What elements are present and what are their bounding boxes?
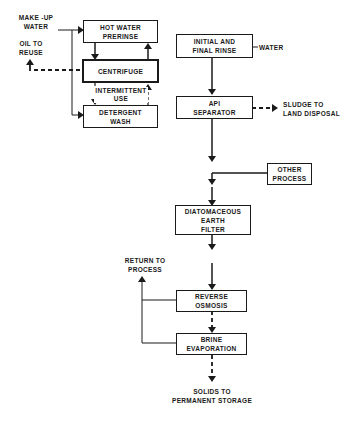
oil-to-reuse-label: OIL TO REUSE [14,39,48,57]
label-line: USE [94,95,148,103]
box-label: CENTRIFUGE [98,67,143,76]
box-label: OTHER [277,165,301,174]
box-label: PRERINSE [103,32,139,41]
label-line: INTERMITTENT [94,87,148,95]
box-label: WASH [110,117,131,126]
initial-final-rinse-box: INITIAL AND FINAL RINSE [176,34,253,58]
box-label: HOT WATER [100,23,141,32]
box-label: FILTER [201,225,225,234]
box-label: DETERGENT [99,108,142,117]
intermittent-use-label: INTERMITTENT USE [94,87,148,103]
diatomaceous-earth-filter-box: DIATOMACEOUS EARTH FILTER [175,205,251,235]
box-label: API [209,99,221,108]
brine-evaporation-box: BRINE EVAPORATION [176,333,247,355]
reverse-osmosis-box: REVERSE OSMOSIS [176,290,247,312]
hot-water-prerinse-box: HOT WATER PRERINSE [83,20,158,43]
box-label: SEPARATOR [193,108,235,117]
box-label: PROCESS [273,174,307,183]
makeup-water-label: MAKE -UP WATER [14,13,58,31]
label-line: SLUDGE TO [283,100,340,109]
detergent-wash-box: DETERGENT WASH [83,105,158,128]
box-label: DIATOMACEOUS [185,207,241,216]
centrifuge-box: CENTRIFUGE [82,59,159,83]
box-label: EARTH [201,216,225,225]
label-line: OIL TO [14,39,48,48]
other-process-box: OTHER PROCESS [267,163,312,185]
box-label: INITIAL AND [194,37,236,46]
label-line: SOLIDS TO [172,387,252,396]
label-line: LAND DISPOSAL [283,109,340,118]
label-line: RETURN TO [120,256,170,265]
label-line: MAKE -UP [14,13,58,22]
process-flow-diagram: HOT WATER PRERINSE CENTRIFUGE DETERGENT … [0,0,353,429]
box-label: OSMOSIS [195,301,227,310]
label-line: PROCESS [120,265,170,274]
box-label: FINAL RINSE [193,46,237,55]
box-label: REVERSE [195,292,228,301]
label-line: WATER [14,22,58,31]
sludge-to-land-disposal-label: SLUDGE TO LAND DISPOSAL [283,100,340,118]
return-to-process-label: RETURN TO PROCESS [120,256,170,274]
label-line: PERMANENT STORAGE [172,396,252,405]
box-label: EVAPORATION [186,344,236,353]
label-line: REUSE [14,48,48,57]
api-separator-box: API SEPARATOR [176,96,253,119]
solids-to-permanent-storage-label: SOLIDS TO PERMANENT STORAGE [172,387,252,405]
water-label: WATER [259,43,284,52]
box-label: BRINE [201,335,223,344]
